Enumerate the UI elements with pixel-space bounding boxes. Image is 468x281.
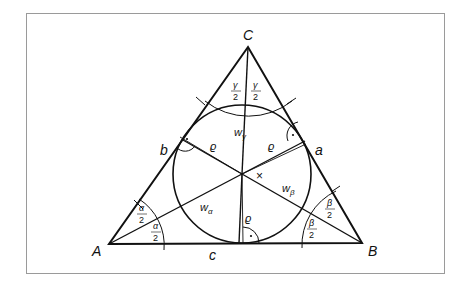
figure-frame <box>27 14 445 274</box>
tick-gamma-right <box>287 98 296 104</box>
bisector-w-alpha <box>109 174 242 244</box>
bisector-w-gamma <box>242 47 248 174</box>
svg-text:γ: γ <box>253 80 258 90</box>
side-label-b: b <box>160 142 168 158</box>
label-w-beta: wβ <box>282 182 295 197</box>
frac-beta-lower: β 2 <box>307 218 317 240</box>
tick-gamma-left <box>196 97 205 105</box>
right-angle-dot-b <box>186 138 188 140</box>
vertex-label-a: A <box>91 243 101 259</box>
svg-text:2: 2 <box>253 92 258 102</box>
svg-text:β: β <box>308 218 314 228</box>
incircle-diagram: A B C a b c wγ wα wβ ϱ ϱ ϱ × γ 2 γ 2 α 2… <box>0 0 468 281</box>
label-w-alpha: wα <box>200 201 213 216</box>
frac-gamma-right: γ 2 <box>251 80 261 102</box>
side-label-a: a <box>315 142 323 158</box>
centroid-mark: × <box>256 169 263 183</box>
svg-text:γ: γ <box>233 80 238 90</box>
svg-text:2: 2 <box>327 210 332 220</box>
frac-gamma-left: γ 2 <box>231 80 241 102</box>
svg-text:2: 2 <box>309 230 314 240</box>
frac-beta-upper: β 2 <box>325 198 335 220</box>
radius-to-c <box>242 174 243 243</box>
side-label-c: c <box>209 247 216 263</box>
svg-text:2: 2 <box>153 233 158 243</box>
label-rho-right: ϱ <box>268 140 275 152</box>
frac-alpha-upper: α 2 <box>137 203 147 225</box>
svg-text:α: α <box>153 221 159 231</box>
frac-alpha-lower: α 2 <box>151 221 161 243</box>
bisector-gamma-extension <box>239 174 242 243</box>
svg-text:2: 2 <box>233 92 238 102</box>
right-angle-dot-c <box>250 235 252 237</box>
label-rho-left: ϱ <box>210 140 217 152</box>
svg-text:α: α <box>139 203 145 213</box>
vertex-label-b: B <box>368 243 377 259</box>
right-angle-dot-a <box>292 134 294 136</box>
svg-text:β: β <box>326 198 332 208</box>
vertex-label-c: C <box>243 27 254 43</box>
triangle-abc <box>109 47 362 244</box>
svg-text:2: 2 <box>139 215 144 225</box>
label-w-gamma: wγ <box>234 126 247 141</box>
label-rho-bottom: ϱ <box>245 212 252 224</box>
bisector-w-beta <box>242 174 362 243</box>
